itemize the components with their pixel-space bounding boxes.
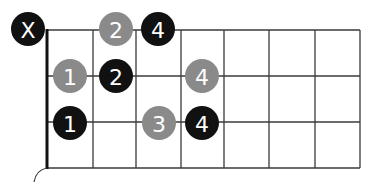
fretboard-grid: [47, 30, 360, 168]
mute-marker: X: [11, 12, 45, 46]
finger-dot: 2: [99, 59, 133, 93]
finger-dot: 1: [53, 106, 87, 140]
finger-markers: X24124134: [11, 12, 219, 140]
finger-number: 1: [63, 112, 77, 137]
finger-dot: 1: [53, 59, 87, 93]
bracket-curve: [34, 168, 47, 182]
finger-dot: 3: [142, 106, 176, 140]
finger-number: 4: [151, 18, 165, 43]
finger-number: 1: [63, 65, 77, 90]
finger-number: X: [20, 18, 35, 43]
finger-number: 3: [152, 112, 166, 137]
finger-dot: 4: [185, 106, 219, 140]
finger-number: 2: [109, 65, 123, 90]
finger-number: 4: [195, 112, 209, 137]
finger-dot: 4: [141, 12, 175, 46]
finger-number: 4: [195, 65, 209, 90]
chord-diagram: X24124134: [0, 0, 377, 182]
finger-dot: 2: [99, 12, 133, 46]
finger-dot: 4: [185, 59, 219, 93]
finger-number: 2: [109, 18, 123, 43]
